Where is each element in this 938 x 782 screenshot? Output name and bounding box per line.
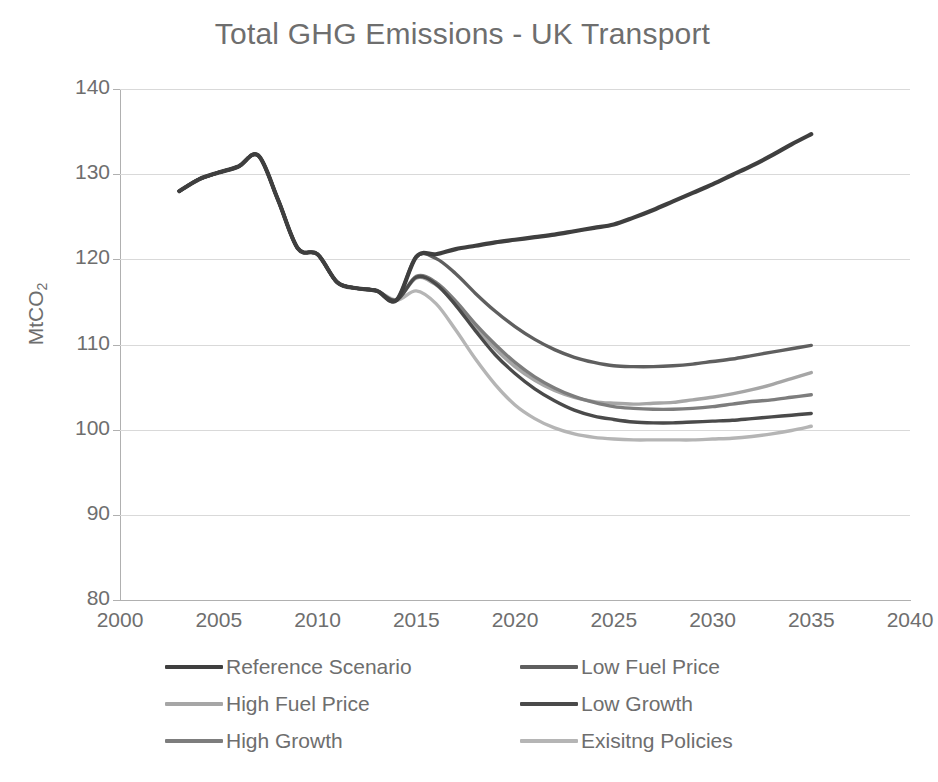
plot-area xyxy=(120,89,910,600)
y-axis-tick-label: 140 xyxy=(6,75,110,99)
y-axis-tick-mark xyxy=(113,600,120,601)
legend-swatch-icon xyxy=(165,702,223,706)
chart-legend: Reference ScenarioLow Fuel PriceHigh Fue… xyxy=(120,650,910,762)
y-axis-tick-label: 80 xyxy=(6,586,110,610)
legend-swatch-icon xyxy=(520,665,578,669)
y-axis-tick-label: 130 xyxy=(6,160,110,184)
series-line xyxy=(179,134,811,301)
legend-label: High Growth xyxy=(226,729,343,753)
x-axis-tick-label: 2005 xyxy=(164,608,274,632)
x-axis-tick-label: 2010 xyxy=(263,608,373,632)
legend-swatch-icon xyxy=(520,702,578,706)
x-axis-tick-label: 2025 xyxy=(559,608,669,632)
chart-title: Total GHG Emissions - UK Transport xyxy=(0,16,925,52)
x-axis-tick-label: 2015 xyxy=(361,608,471,632)
y-axis-tick-mark xyxy=(113,259,120,260)
y-axis-tick-mark xyxy=(113,515,120,516)
legend-label: Reference Scenario xyxy=(226,655,412,679)
x-axis-tick-label: 2030 xyxy=(658,608,768,632)
y-axis-tick-mark xyxy=(113,430,120,431)
legend-item[interactable]: High Fuel Price xyxy=(165,687,370,721)
legend-label: Exisitng Policies xyxy=(581,729,733,753)
legend-item[interactable]: Exisitng Policies xyxy=(520,724,733,758)
legend-label: Low Growth xyxy=(581,692,693,716)
x-axis-tick-labels: 200020052010201520202025203020352040 xyxy=(120,608,910,640)
legend-label: High Fuel Price xyxy=(226,692,370,716)
y-axis-tick-mark xyxy=(113,174,120,175)
legend-label: Low Fuel Price xyxy=(581,655,720,679)
legend-item[interactable]: Reference Scenario xyxy=(165,650,412,684)
y-axis-tick-label: 100 xyxy=(6,416,110,440)
x-axis-tick-label: 2035 xyxy=(756,608,866,632)
legend-swatch-icon xyxy=(520,739,578,743)
x-axis-tick-label: 2020 xyxy=(460,608,570,632)
y-axis-tick-mark xyxy=(113,345,120,346)
legend-item[interactable]: Low Growth xyxy=(520,687,693,721)
y-axis-tick-label: 90 xyxy=(6,501,110,525)
y-axis-tick-label: 110 xyxy=(6,331,110,355)
x-axis-tick-label: 2000 xyxy=(65,608,175,632)
legend-swatch-icon xyxy=(165,665,223,669)
series-lines xyxy=(120,89,910,600)
legend-item[interactable]: High Growth xyxy=(165,724,343,758)
legend-item[interactable]: Low Fuel Price xyxy=(520,650,720,684)
x-axis-line xyxy=(120,600,911,601)
y-axis-tick-labels: 8090100110120130140 xyxy=(0,89,110,601)
y-axis-tick-label: 120 xyxy=(6,245,110,269)
legend-swatch-icon xyxy=(165,739,223,743)
x-axis-tick-label: 2040 xyxy=(855,608,938,632)
y-axis-tick-mark xyxy=(113,89,120,90)
